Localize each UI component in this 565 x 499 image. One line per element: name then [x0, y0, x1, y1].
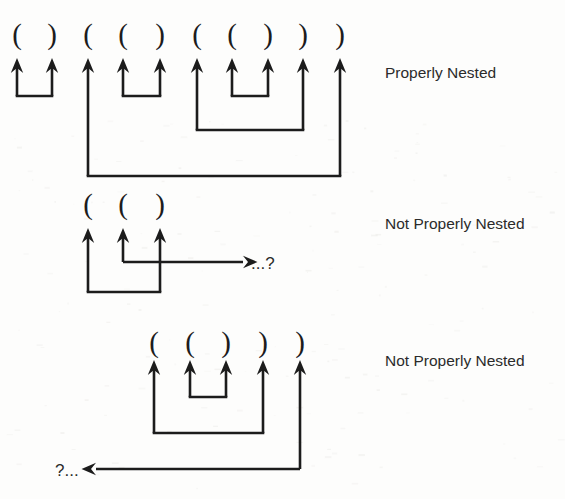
scan-speckle: [363, 374, 368, 376]
scan-speckle: [94, 159, 98, 160]
scan-speckle: [274, 415, 276, 416]
scan-speckle: [460, 321, 464, 322]
scan-speckle: [15, 429, 21, 431]
scan-speckle: [139, 309, 142, 311]
scan-speckle: [385, 286, 387, 288]
scan-speckle: [345, 377, 350, 379]
scan-speckle: [306, 270, 312, 272]
scan-speckle: [416, 153, 418, 154]
scan-speckle: [309, 226, 311, 228]
scan-speckle: [103, 202, 105, 204]
scan-speckle: [124, 288, 130, 289]
scan-speckle: [17, 147, 22, 149]
scan-speckle: [508, 177, 511, 178]
scan-speckle: [359, 266, 365, 267]
scan-speckle: [340, 428, 345, 430]
scan-speckle: [337, 290, 339, 291]
scan-speckle: [188, 257, 193, 259]
open-paren-glyph: (: [83, 188, 93, 221]
scan-speckle: [170, 124, 173, 125]
scan-speckle: [428, 380, 434, 382]
close-paren-glyph: ): [155, 188, 165, 221]
scan-speckle: [370, 190, 373, 192]
scan-speckle: [342, 172, 348, 173]
scan-speckle: [209, 121, 211, 122]
scan-speckle: [311, 465, 315, 467]
scan-speckle: [72, 449, 76, 450]
close-paren-glyph: ): [221, 326, 231, 359]
scan-speckle: [406, 413, 410, 414]
scan-speckle: [313, 194, 317, 196]
scan-speckle: [372, 220, 379, 222]
scan-speckle: [18, 330, 20, 331]
scan-speckle: [47, 273, 53, 274]
scan-speckle: [197, 488, 198, 489]
scan-speckle: [312, 351, 316, 352]
scan-speckle: [379, 294, 381, 296]
scan-speckle: [181, 136, 188, 138]
scan-speckle: [537, 466, 543, 468]
scan-speckle: [19, 190, 20, 191]
scan-speckle: [514, 457, 517, 459]
scan-speckle: [215, 231, 221, 232]
open-paren-glyph: (: [118, 18, 128, 51]
scan-speckle: [108, 121, 114, 123]
scan-speckle: [202, 271, 203, 272]
scan-speckle: [473, 251, 476, 253]
close-paren-glyph: ): [298, 18, 308, 51]
open-paren-glyph: (: [227, 18, 237, 51]
scan-speckle: [222, 124, 225, 125]
scan-speckle: [127, 303, 130, 305]
scan-speckle: [55, 201, 56, 203]
scan-speckle: [28, 170, 33, 172]
scan-speckle: [220, 243, 226, 245]
scan-speckle: [37, 344, 43, 346]
close-paren-glyph: ): [155, 18, 165, 51]
scan-speckle: [141, 233, 143, 234]
scan-speckle: [528, 192, 535, 193]
unmatched-ellipsis-text: ...?: [251, 254, 275, 273]
scan-speckle: [327, 449, 331, 450]
scan-speckle: [417, 142, 419, 143]
scan-speckle: [558, 439, 565, 441]
scan-speckle: [295, 155, 298, 156]
scan-speckle: [338, 349, 345, 350]
open-paren-glyph: (: [185, 326, 195, 359]
scan-speckle: [142, 247, 148, 249]
scan-speckle: [245, 371, 246, 372]
scan-speckle: [60, 432, 64, 434]
scan-speckle: [394, 158, 397, 159]
scan-speckle: [328, 139, 334, 140]
scan-speckle: [313, 250, 314, 252]
scan-speckle: [307, 413, 311, 414]
scan-speckle: [16, 463, 21, 465]
scan-speckle: [71, 136, 74, 137]
scan-speckle: [104, 415, 107, 416]
scan-speckle: [423, 124, 427, 126]
scan-speckle: [41, 347, 45, 348]
scan-speckle: [529, 408, 533, 410]
scan-speckle: [377, 244, 381, 245]
scan-speckle: [14, 138, 15, 139]
scan-speckle: [67, 302, 68, 304]
scan-speckle: [213, 426, 218, 427]
scan-speckle: [162, 181, 165, 183]
close-paren-glyph: ): [258, 326, 268, 359]
scan-speckle: [275, 346, 276, 347]
scan-speckle: [203, 304, 209, 306]
unmatched-ellipsis-text: ?...: [55, 461, 79, 480]
scan-speckle: [332, 359, 338, 360]
close-paren-glyph: ): [335, 18, 345, 51]
scan-speckle: [550, 212, 555, 214]
scan-speckle: [334, 231, 338, 233]
scan-speckle: [205, 353, 210, 354]
scan-speckle: [555, 172, 558, 173]
scan-speckle: [503, 444, 505, 445]
scan-speckle: [482, 308, 484, 310]
scan-speckle: [45, 187, 50, 189]
scan-speckle: [536, 197, 543, 198]
scan-speckle: [413, 180, 415, 182]
open-paren-glyph: (: [149, 326, 159, 359]
scan-speckle: [377, 389, 380, 391]
open-paren-glyph: (: [118, 188, 128, 221]
